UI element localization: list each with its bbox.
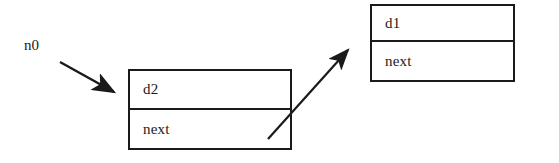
node-next-cell-d1: next [372,42,513,80]
node-data-cell-d1: d1 [372,6,513,42]
node-next-cell-d2: next [130,110,290,148]
list-node-d2: d2 next [128,69,292,150]
node-data-cell-d2: d2 [130,71,290,110]
diagram-canvas: n0 d2 next d1 next [0,0,559,163]
pointer-label-n0: n0 [24,38,39,53]
arrow-n0-to-node1 [60,62,114,92]
list-node-d1: d1 next [370,4,515,82]
